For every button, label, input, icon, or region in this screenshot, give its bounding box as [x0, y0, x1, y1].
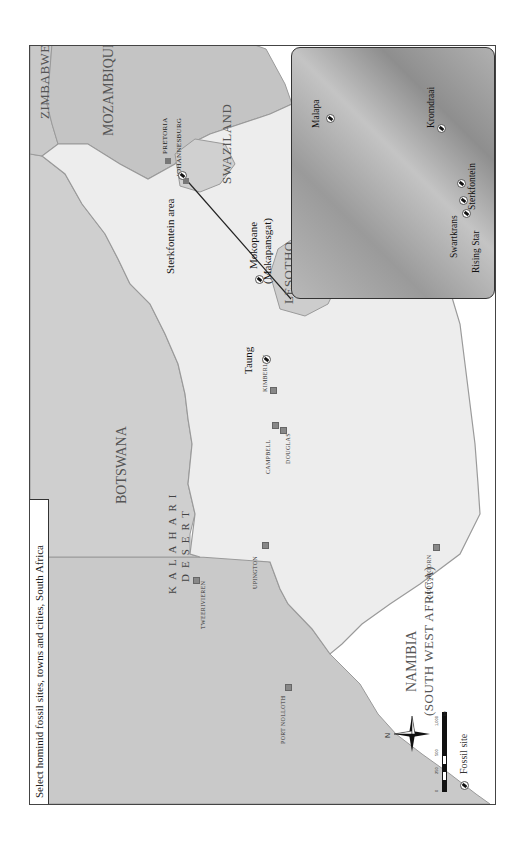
inset-site-marker-rising-star[interactable]: [462, 209, 471, 218]
inset-site-marker-kromdraai[interactable]: [437, 124, 446, 133]
country-label-namibia: NAMIBIA: [405, 631, 419, 692]
inset-site-label-swartkrans: Swartkrans: [450, 215, 460, 258]
region-label-desert: DESERT: [180, 505, 191, 582]
town-marker-oudtshoorn: [433, 544, 440, 551]
north-label: N: [384, 733, 391, 738]
fossil-site-label-mokopane: Mokopane: [248, 222, 259, 269]
country-label-zimbabwe: ZIMBABWE: [38, 45, 51, 119]
scale-tick-1000: 1,000: [434, 716, 439, 726]
town-marker-upington: [262, 542, 269, 549]
map-title: Select hominid fossil sites, towns and c…: [29, 499, 49, 805]
town-label-douglas: DOUGLAS: [285, 433, 291, 464]
inset-site-marker-malapa[interactable]: [326, 114, 335, 123]
fossil-site-label-makapansgat: (Makapansgat): [262, 218, 273, 284]
inset-site-label-rising-star: Rising Star: [472, 231, 482, 274]
inset-site-label-kromdraai: Kromdraai: [427, 87, 437, 128]
town-label-port-nolloth: PORT NOLLOTH: [280, 696, 286, 744]
fossil-site-label-sterkfontein-area: Sterkfontein area: [165, 199, 176, 274]
city-label-pretoria: PRETORIA: [162, 118, 169, 155]
fossil-site-marker-taung[interactable]: [262, 355, 271, 364]
city-marker-pretoria: [165, 158, 171, 164]
inset-site-marker-swartkrans[interactable]: [459, 196, 468, 205]
town-marker-kimberley: [270, 387, 277, 394]
town-label-tweerivieren: TWEERIVIEREN: [200, 581, 206, 629]
country-label-swaziland: SWAZILAND: [220, 104, 233, 184]
scale-bar: [442, 712, 447, 792]
inset-site-label-malapa: Malapa: [312, 100, 322, 129]
scale-tick-500: 500: [434, 749, 439, 756]
inset-site-label-sterkfontein: Sterkfontein: [468, 163, 478, 210]
town-marker-port-nolloth: [285, 684, 292, 691]
country-label-botswana: BOTSWANA: [115, 426, 129, 504]
scale-tick-250: 250: [434, 767, 439, 774]
town-marker-campbell: [272, 422, 279, 429]
town-label-upington: UPINGTON: [252, 556, 258, 589]
legend-fossil-site-label: Fossil site: [459, 734, 469, 774]
town-marker-tweerivieren: [193, 577, 200, 584]
scale-tick-0: 0: [434, 790, 439, 792]
town-label-oudtshoorn: OUDTSHOORN: [426, 555, 432, 599]
inset-map-sterkfontein: Malapa Kromdraai Sterkfontein Swartkrans…: [291, 47, 495, 299]
map-frame: Select hominid fossil sites, towns and c…: [29, 45, 496, 805]
scale-unit: km: [442, 711, 447, 716]
legend-fossil-site-icon: [460, 781, 469, 790]
fossil-site-label-taung: Taung: [243, 347, 254, 374]
town-label-campbell: CAMPBELL: [265, 440, 271, 474]
city-label-johannesburg: JOHANNESBURG: [176, 118, 183, 177]
country-label-mozambique: MOZAMBIQUE: [102, 45, 116, 136]
north-arrow-icon: [392, 714, 432, 754]
inset-site-marker-sterkfontein[interactable]: [457, 179, 466, 188]
region-label-kalahari: KALAHARI: [167, 489, 178, 594]
fossil-site-marker-sterkfontein[interactable]: [178, 171, 187, 180]
